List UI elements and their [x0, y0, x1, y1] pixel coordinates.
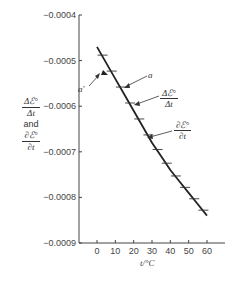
y-tick-label: −0.0005 [43, 56, 76, 66]
x-tick-label: 60 [202, 246, 212, 256]
y-label-partial-num: ∂ℰ° [22, 130, 39, 142]
annotation-a: a [148, 70, 153, 80]
x-tick-label: 50 [184, 246, 194, 256]
axes: −0.0004−0.0005−0.0006−0.0007−0.0008−0.00… [43, 10, 225, 256]
y-label-fraction-delta: Δℰ° Δt [22, 96, 40, 119]
y-label-and: and [23, 119, 38, 129]
annotation-partial-num: ∂ℰ° [174, 120, 191, 131]
x-axis-label: t/°C [140, 258, 155, 268]
annotation-delta-den: Δt [160, 99, 178, 109]
annotation-partial: ∂ℰ°∂t [174, 120, 191, 141]
x-tick-label: 20 [129, 246, 139, 256]
y-label-partial-den: ∂t [22, 142, 39, 153]
y-axis-label: Δℰ° Δt and ∂ℰ° ∂t [10, 96, 52, 153]
x-tick-label: 0 [94, 246, 99, 256]
annotation-delta-num: Δℰ° [160, 88, 178, 99]
annotation-a-prime: a′ [78, 84, 84, 94]
x-tick-label: 10 [110, 246, 120, 256]
annotation-partial-den: ∂t [174, 131, 191, 141]
y-label-delta-num: Δℰ° [22, 96, 40, 108]
y-label-delta-den: Δt [22, 108, 40, 119]
y-tick-label: −0.0009 [43, 238, 76, 248]
y-tick-label: −0.0004 [43, 10, 76, 20]
annotation-delta: Δℰ°Δt [160, 88, 178, 109]
x-tick-label: 30 [147, 246, 157, 256]
y-tick-label: −0.0008 [43, 192, 76, 202]
x-tick-label: 40 [165, 246, 175, 256]
y-label-fraction-partial: ∂ℰ° ∂t [22, 130, 39, 153]
